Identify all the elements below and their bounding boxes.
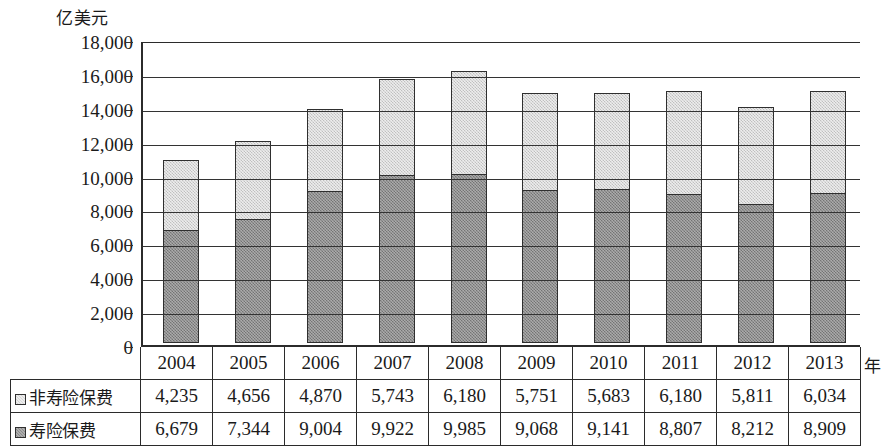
table-cell: 8,807 <box>645 413 717 446</box>
stacked-bar <box>738 105 774 343</box>
y-axis-tick-mark <box>125 211 133 212</box>
gridline <box>143 246 860 247</box>
y-axis-tick-label: 18,000 <box>13 33 133 52</box>
table-cell: 8,212 <box>717 413 789 446</box>
y-axis-tick-label: 4,000 <box>13 270 133 289</box>
y-axis-tick-label: 14,000 <box>13 100 133 119</box>
y-axis-tick-mark <box>125 110 133 111</box>
gridline <box>143 314 860 315</box>
y-axis-tick-mark <box>125 178 133 179</box>
bar-group <box>145 43 860 343</box>
stacked-bar <box>666 89 702 343</box>
table-cell: 6,180 <box>645 380 717 413</box>
bar-segment-nonlife-premium <box>163 160 199 232</box>
table-cell: 5,751 <box>501 380 573 413</box>
bar-segment-life-premium <box>810 192 846 343</box>
y-axis-tick-label: 6,000 <box>13 236 133 255</box>
table-cell: 8,909 <box>789 413 861 446</box>
gridline <box>143 179 860 180</box>
stacked-bar <box>379 78 415 343</box>
table-year-header: 2009 <box>501 347 573 380</box>
bar-segment-life-premium <box>379 175 415 343</box>
y-axis-tick-mark <box>125 76 133 77</box>
bar-segment-nonlife-premium <box>738 107 774 205</box>
bar-segment-life-premium <box>451 174 487 343</box>
chart-figure: 亿美元 18,00016,00014,00012,00010,0008,0006… <box>0 0 886 447</box>
y-axis-tick-label: 10,000 <box>13 168 133 187</box>
bar-segment-nonlife-premium <box>451 71 487 176</box>
table-cell: 5,743 <box>357 380 429 413</box>
table-cell: 4,235 <box>141 380 213 413</box>
stacked-bar <box>163 158 199 343</box>
table-cell: 7,344 <box>213 413 285 446</box>
y-axis: 18,00016,00014,00012,00010,0008,0006,000… <box>0 42 133 347</box>
table-cell: 9,004 <box>285 413 357 446</box>
table-year-header: 2012 <box>717 347 789 380</box>
table-cell: 4,656 <box>213 380 285 413</box>
gridline <box>143 280 860 281</box>
table-year-header: 2008 <box>429 347 501 380</box>
table-corner-cell <box>11 347 141 380</box>
table-year-header: 2005 <box>213 347 285 380</box>
table-cell: 6,679 <box>141 413 213 446</box>
table-cell: 4,870 <box>285 380 357 413</box>
bar-segment-life-premium <box>666 194 702 343</box>
table-row-header: 寿险保费 <box>11 413 141 446</box>
stacked-bar <box>810 90 846 343</box>
y-axis-tick-label: 8,000 <box>13 202 133 221</box>
gridline <box>143 77 860 78</box>
series-label: 非寿险保费 <box>29 388 113 408</box>
table-cell: 9,985 <box>429 413 501 446</box>
table-cell: 5,811 <box>717 380 789 413</box>
bar-segment-nonlife-premium <box>522 93 558 190</box>
bar-segment-nonlife-premium <box>307 109 343 192</box>
table-year-header: 2007 <box>357 347 429 380</box>
y-axis-tick-mark <box>125 144 133 145</box>
x-axis-unit-label: 年 <box>864 352 881 377</box>
y-axis-tick-label: 16,000 <box>13 66 133 85</box>
bar-segment-nonlife-premium <box>379 79 415 176</box>
dark-gray-swatch-icon <box>15 427 26 438</box>
gridline <box>143 212 860 213</box>
table-year-header: 2013 <box>789 347 861 380</box>
bar-segment-nonlife-premium <box>235 141 271 220</box>
y-axis-tick-label: 12,000 <box>13 134 133 153</box>
stacked-bar <box>594 92 630 343</box>
table-header-row: 2004200520062007200820092010201120122013 <box>11 347 861 380</box>
table-cell: 6,034 <box>789 380 861 413</box>
bar-segment-life-premium <box>594 188 630 343</box>
table-year-header: 2006 <box>285 347 357 380</box>
plot-area <box>141 42 860 347</box>
series-label: 寿险保费 <box>29 421 96 441</box>
bar-segment-life-premium <box>738 204 774 343</box>
table-year-header: 2011 <box>645 347 717 380</box>
gridline <box>143 145 860 146</box>
stacked-bar <box>522 92 558 343</box>
table-cell: 6,180 <box>429 380 501 413</box>
y-axis-tick-mark <box>125 245 133 246</box>
table-row-header: 非寿险保费 <box>11 380 141 413</box>
bar-segment-nonlife-premium <box>666 91 702 196</box>
data-table: 2004200520062007200820092010201120122013… <box>10 347 861 446</box>
y-axis-tick-label: 2,000 <box>13 304 133 323</box>
bar-segment-nonlife-premium <box>594 93 630 189</box>
stacked-bar <box>307 108 343 343</box>
table-row: 寿险保费6,6797,3449,0049,9229,9859,0689,1418… <box>11 413 861 446</box>
y-axis-tick-mark <box>125 313 133 314</box>
y-axis-tick-mark <box>125 42 133 43</box>
table-cell: 9,068 <box>501 413 573 446</box>
table-year-header: 2004 <box>141 347 213 380</box>
table-row: 非寿险保费4,2354,6564,8705,7436,1805,7515,683… <box>11 380 861 413</box>
table-year-header: 2010 <box>573 347 645 380</box>
y-axis-unit-label: 亿美元 <box>56 4 109 29</box>
stacked-bar <box>235 140 271 343</box>
table-cell: 5,683 <box>573 380 645 413</box>
table-cell: 9,922 <box>357 413 429 446</box>
y-axis-tick-mark <box>125 279 133 280</box>
gridline <box>143 111 860 112</box>
table-cell: 9,141 <box>573 413 645 446</box>
light-gray-swatch-icon <box>15 394 26 405</box>
